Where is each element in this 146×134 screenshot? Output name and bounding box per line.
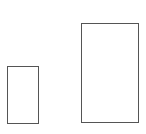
small-rectangle (7, 66, 39, 124)
large-rectangle (81, 23, 139, 123)
